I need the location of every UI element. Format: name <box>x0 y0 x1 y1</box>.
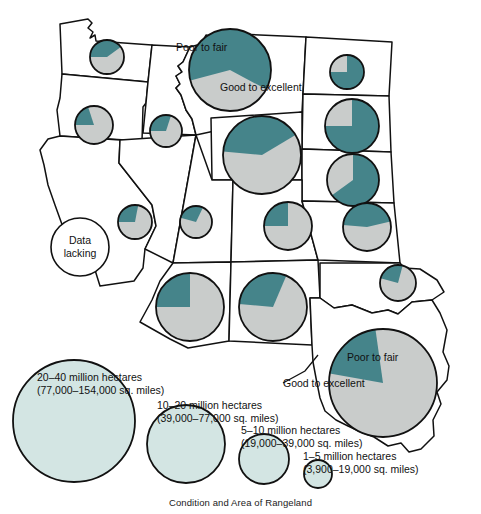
state-pie-wyoming <box>223 116 301 194</box>
state-pie-kansas <box>343 203 391 251</box>
legend-hectares-label: 10–20 million hectares <box>157 399 262 411</box>
figure-caption: Condition and Area of Rangeland <box>0 497 481 508</box>
legend-hectares-label: 5–10 million hectares <box>241 424 340 436</box>
legend-entry-legend-20-40: 20–40 million hectares(77,000–154,000 sq… <box>13 360 164 482</box>
state-pie-south-dakota <box>325 99 379 153</box>
montana-good-to-excellent-label: Good to excellent <box>220 81 302 93</box>
state-pie-north-dakota <box>330 55 364 89</box>
legend-hectares-label: 20–40 million hectares <box>37 371 142 383</box>
map-canvas: Data lacking Poor to fair Good to excell… <box>0 0 481 514</box>
rangeland-condition-map: Data lacking Poor to fair Good to excell… <box>0 0 481 514</box>
legend-sqmiles-label: (19,000–39,000 sq. miles) <box>241 437 362 449</box>
state-pie-utah <box>180 206 212 238</box>
state-pie-arizona <box>156 273 224 341</box>
texas-poor-to-fair-label: Poor to fair <box>347 351 399 363</box>
legend-hectares-label: 1–5 million hectares <box>303 450 396 462</box>
legend-entry-legend-1-5: 1–5 million hectares(3,900–19,000 sq. mi… <box>303 450 419 488</box>
state-pie-colorado <box>264 202 312 250</box>
legend-sqmiles-label: (3,900–19,000 sq. miles) <box>303 463 419 475</box>
data-lacking-marker: Data lacking <box>51 218 109 276</box>
state-pie-idaho <box>150 115 182 147</box>
data-lacking-label-line2: lacking <box>64 247 97 259</box>
state-pie-nevada <box>118 205 152 239</box>
state-pie-washington <box>90 40 124 74</box>
state-pie-nebraska <box>327 154 379 206</box>
data-lacking-label-line1: Data <box>69 234 91 246</box>
legend-sqmiles-label: (39,000–77,000 sq. miles) <box>157 412 278 424</box>
texas-good-to-excellent-label: Good to excellent <box>283 377 365 389</box>
legend-sqmiles-label: (77,000–154,000 sq. miles) <box>37 384 164 396</box>
state-pie-oregon <box>75 106 113 144</box>
state-pie-new-mexico <box>239 273 307 341</box>
montana-poor-to-fair-label: Poor to fair <box>176 41 228 53</box>
state-pie-oklahoma <box>380 265 416 301</box>
